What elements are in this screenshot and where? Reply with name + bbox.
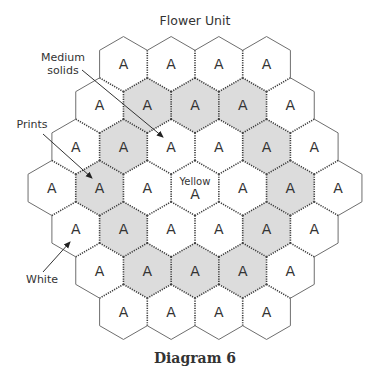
white-label-line: White — [24, 273, 60, 286]
hex-template-letter: A — [71, 221, 81, 237]
hex-template-letter: A — [119, 221, 129, 237]
hex-template-letter: A — [95, 97, 105, 113]
hex-template-letter: A — [238, 97, 248, 113]
medium-solids-label: Mediumsolids — [38, 51, 88, 77]
hex-template-letter: A — [262, 304, 272, 320]
hex-template-letter: A — [143, 263, 153, 279]
hex-template-letter: A — [214, 139, 224, 155]
hex-template-letter: A — [214, 304, 224, 320]
hex-template-letter: A — [309, 221, 319, 237]
white-label: White — [24, 273, 60, 286]
hex-template-letter: A — [119, 56, 129, 72]
hex-template-letter: A — [214, 56, 224, 72]
diagram-caption: Diagram 6 — [0, 350, 382, 366]
prints-label: Prints — [14, 118, 50, 131]
hex-template-letter: A — [262, 139, 272, 155]
medium-solids-label-line: Medium — [38, 51, 88, 64]
hex-template-letter: A — [143, 180, 153, 196]
hex-template-letter: A — [190, 263, 200, 279]
hex-template-letter: A — [238, 180, 248, 196]
white-arrow — [43, 242, 70, 272]
hex-template-letter: A — [286, 180, 296, 196]
hex-template-letter: A — [143, 97, 153, 113]
hex-template-letter: A — [286, 263, 296, 279]
hex-template-letter: A — [166, 139, 176, 155]
medium-solids-label-line: solids — [38, 64, 88, 77]
hex-template-letter: A — [166, 221, 176, 237]
hex-template-letter: A — [119, 139, 129, 155]
hex-template-letter: A — [166, 304, 176, 320]
hex-template-letter: A — [119, 304, 129, 320]
hex-template-letter: A — [214, 221, 224, 237]
hex-template-letter: A — [190, 186, 200, 202]
hex-template-letter: A — [333, 180, 343, 196]
hex-template-letter: A — [166, 56, 176, 72]
hex-template-letter: A — [238, 263, 248, 279]
hex-template-letter: A — [286, 97, 296, 113]
hex-template-letter: A — [95, 180, 105, 196]
hex-template-letter: A — [47, 180, 57, 196]
hex-template-letter: A — [71, 139, 81, 155]
hex-template-letter: A — [309, 139, 319, 155]
hex-template-letter: A — [95, 263, 105, 279]
prints-label-line: Prints — [14, 118, 50, 131]
hex-template-letter: A — [190, 97, 200, 113]
hex-template-letter: A — [262, 56, 272, 72]
hex-template-letter: A — [262, 221, 272, 237]
